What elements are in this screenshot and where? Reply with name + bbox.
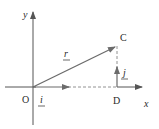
vector-r-label: r: [64, 48, 68, 59]
y-axis-label: y: [22, 9, 28, 20]
vector-i-label: i: [40, 94, 43, 105]
point-c-label: C: [120, 32, 127, 43]
vector-j-label: j: [121, 67, 126, 78]
point-d-label: D: [113, 95, 120, 106]
vector-diagram: y x O C D r i j: [0, 0, 159, 129]
vector-r-arrow: [33, 47, 115, 87]
x-axis-label: x: [143, 98, 149, 109]
vector-j-label-group: j: [121, 67, 128, 79]
vector-i-label-group: i: [38, 94, 45, 106]
origin-label: O: [22, 94, 29, 105]
vector-r-label-group: r: [63, 48, 70, 60]
